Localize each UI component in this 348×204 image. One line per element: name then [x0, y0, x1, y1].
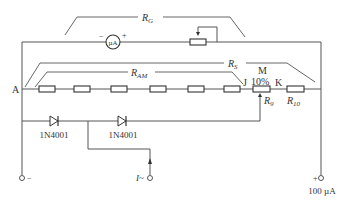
r9-wiper-arrow-icon [258, 93, 262, 97]
ram-resistor-1 [39, 86, 55, 92]
ram-label: RAM [130, 67, 148, 80]
meter-minus: − [99, 32, 104, 41]
node-k-label: K [275, 77, 283, 88]
ram-bracket: RAM [35, 67, 243, 87]
rg-bracket: RG [65, 12, 245, 37]
diode-1-label: 1N4001 [40, 130, 69, 140]
node-m-label: M [258, 65, 267, 76]
terminal-minus[interactable]: − [20, 174, 33, 183]
tap-percent-label: 10% [251, 76, 269, 87]
terminal-plus-100ua[interactable]: + 100 µA [308, 174, 336, 196]
meter-label: µA [108, 39, 117, 47]
r10-label: R10 [286, 95, 301, 108]
node-j-label: J [243, 77, 247, 88]
input-current-label: I~ [135, 173, 144, 183]
diode-2-label: 1N4001 [109, 130, 138, 140]
ram-resistor-6 [224, 86, 240, 92]
diode-2: 1N4001 [109, 116, 138, 140]
r10-resistor: R10 [286, 86, 304, 108]
rs-bracket: RS [25, 58, 315, 87]
node-a-label: A [12, 84, 20, 95]
rg-label: RG [141, 12, 153, 25]
wiper-arrow-icon [196, 32, 200, 36]
wires [22, 42, 321, 175]
ram-resistor-4 [150, 86, 166, 92]
ram-resistor-5 [188, 86, 204, 92]
r9-label: R9 [263, 95, 274, 108]
circuit-diagram: RG µA − + RS RAM [0, 0, 348, 204]
current-arrow-icon [148, 158, 152, 164]
terminal-minus-label: − [27, 174, 32, 183]
terminal-range-label: 100 µA [308, 186, 336, 196]
microammeter: µA − + [99, 31, 127, 49]
meter-plus: + [122, 31, 127, 40]
diode-1: 1N4001 [40, 116, 69, 140]
terminal-plus-label: + [313, 174, 318, 183]
rs-label: RS [227, 58, 238, 71]
terminal-input[interactable] [148, 176, 153, 181]
ram-resistor-2 [74, 86, 90, 92]
ram-resistor-3 [111, 86, 127, 92]
